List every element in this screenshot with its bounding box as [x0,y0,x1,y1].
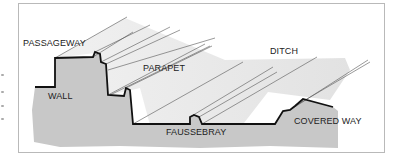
label-passageway: PASSAGEWAY [23,39,86,48]
fortification-diagram [0,0,405,166]
label-faussebray: FAUSSEBRAY [166,128,226,137]
label-covered-way: COVERED WAY [294,117,362,126]
label-ditch: DITCH [270,47,298,56]
label-wall: WALL [48,92,73,101]
label-parapet: PARAPET [143,64,185,73]
